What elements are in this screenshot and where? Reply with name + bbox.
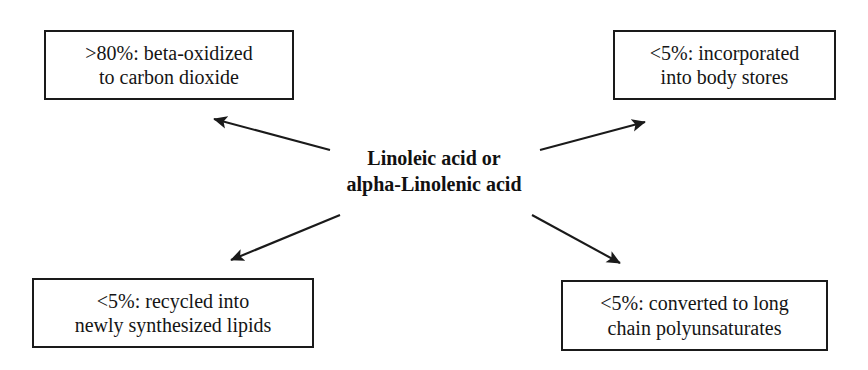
node-box-body-stores: <5%: incorporated into body stores (613, 30, 836, 100)
node-label-long-chain-polyunsaturates: <5%: converted to long chain polyunsatur… (594, 291, 794, 340)
diagram-canvas: >80%: beta-oxidized to carbon dioxide <5… (0, 0, 868, 370)
node-label-recycled-lipids: <5%: recycled into newly synthesized lip… (69, 289, 278, 338)
node-box-long-chain-polyunsaturates: <5%: converted to long chain polyunsatur… (561, 280, 828, 351)
arrow-to-bottom-right (532, 215, 620, 263)
node-box-beta-oxidized: >80%: beta-oxidized to carbon dioxide (44, 30, 294, 100)
arrow-to-top-left (214, 119, 330, 150)
arrow-to-top-right (540, 122, 645, 150)
node-label-body-stores: <5%: incorporated into body stores (644, 41, 806, 90)
node-label-beta-oxidized: >80%: beta-oxidized to carbon dioxide (79, 41, 258, 90)
node-center-fatty-acid: Linoleic acid or alpha-Linolenic acid (334, 141, 534, 203)
node-box-recycled-lipids: <5%: recycled into newly synthesized lip… (32, 278, 314, 348)
arrow-to-bottom-left (231, 215, 340, 260)
node-label-center: Linoleic acid or alpha-Linolenic acid (340, 146, 527, 197)
